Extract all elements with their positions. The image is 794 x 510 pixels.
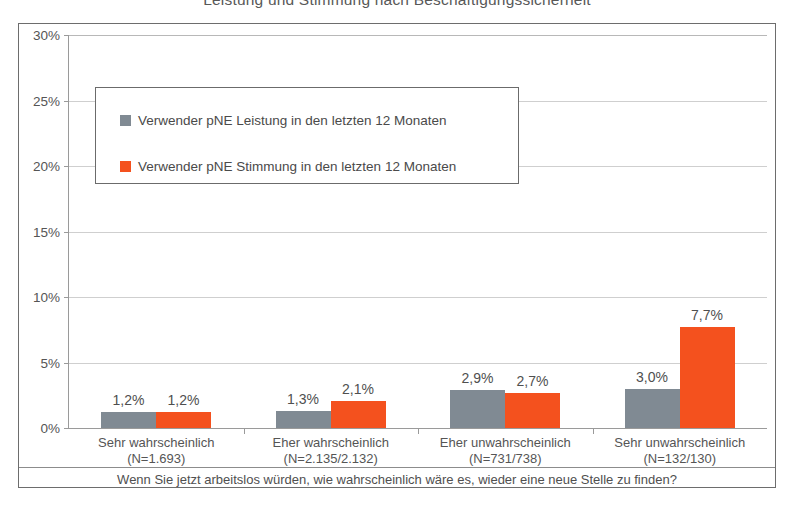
legend-label-leistung: Verwender pNE Leistung in den letzten 12… [138, 113, 446, 128]
category-name: Eher wahrscheinlich [244, 435, 419, 451]
x-axis-category-label: Eher wahrscheinlich(N=2.135/2.132) [244, 435, 419, 467]
category-name: Sehr unwahrscheinlich [593, 435, 768, 451]
bar-leistung[interactable]: 2,9% [450, 390, 505, 428]
bar-rect [156, 412, 211, 428]
bar-rect [505, 393, 560, 428]
y-axis-label: 25% [33, 93, 60, 108]
bar-leistung[interactable]: 3,0% [625, 389, 680, 428]
bar-stimmung[interactable]: 7,7% [680, 327, 735, 428]
bar-value-label: 7,7% [691, 307, 723, 323]
bar-value-label: 1,2% [168, 392, 200, 408]
y-axis-tick [64, 428, 69, 429]
bar-leistung[interactable]: 1,2% [101, 412, 156, 428]
category-sample-size: (N=132/130) [593, 451, 768, 467]
y-axis-label: 0% [40, 421, 60, 436]
x-axis-tick [593, 428, 594, 434]
x-axis-category-label: Sehr wahrscheinlich(N=1.693) [69, 435, 244, 467]
category-sample-size: (N=1.693) [69, 451, 244, 467]
x-axis-tick [418, 428, 419, 434]
bar-rect [331, 401, 386, 429]
bar-leistung[interactable]: 1,3% [276, 411, 331, 428]
y-axis-label: 5% [40, 355, 60, 370]
y-axis-label: 15% [33, 224, 60, 239]
bar-value-label: 2,7% [517, 373, 549, 389]
legend-item-leistung: Verwender pNE Leistung in den letzten 12… [120, 105, 518, 136]
y-axis-label: 10% [33, 290, 60, 305]
bar-stimmung[interactable]: 2,7% [505, 393, 560, 428]
bar-rect [450, 390, 505, 428]
category-sample-size: (N=2.135/2.132) [244, 451, 419, 467]
x-axis-category-label: Sehr unwahrscheinlich(N=132/130) [593, 435, 768, 467]
bar-value-label: 2,1% [342, 381, 374, 397]
legend-label-stimmung: Verwender pNE Stimmung in den letzten 12… [138, 159, 456, 174]
bar-value-label: 2,9% [462, 370, 494, 386]
x-axis-tick [244, 428, 245, 434]
bar-rect [680, 327, 735, 428]
chart-frame: 0%5%10%15%20%25%30%1,2%1,2%Sehr wahrsche… [18, 23, 776, 488]
x-axis-category-label: Eher unwahrscheinlich(N=731/738) [418, 435, 593, 467]
bar-value-label: 1,2% [113, 392, 145, 408]
category-sample-size: (N=731/738) [418, 451, 593, 467]
bar-stimmung[interactable]: 2,1% [331, 401, 386, 429]
y-axis-label: 20% [33, 159, 60, 174]
legend-item-stimmung: Verwender pNE Stimmung in den letzten 12… [120, 151, 518, 182]
bar-value-label: 1,3% [287, 391, 319, 407]
legend-swatch-leistung [120, 115, 131, 126]
bar-rect [276, 411, 331, 428]
legend-swatch-stimmung [120, 161, 131, 172]
bar-rect [625, 389, 680, 428]
bar-value-label: 3,0% [636, 369, 668, 385]
bar-rect [101, 412, 156, 428]
footer-divider [19, 467, 775, 468]
category-name: Eher unwahrscheinlich [418, 435, 593, 451]
category-name: Sehr wahrscheinlich [69, 435, 244, 451]
bar-group: 3,0%7,7% [593, 35, 768, 428]
chart-legend: Verwender pNE Leistung in den letzten 12… [95, 87, 519, 184]
chart-title: Leistung und Stimmung nach Beschäftigung… [0, 0, 794, 11]
bar-stimmung[interactable]: 1,2% [156, 412, 211, 428]
footer-question: Wenn Sie jetzt arbeitslos würden, wie wa… [19, 472, 775, 487]
y-axis-label: 30% [33, 28, 60, 43]
